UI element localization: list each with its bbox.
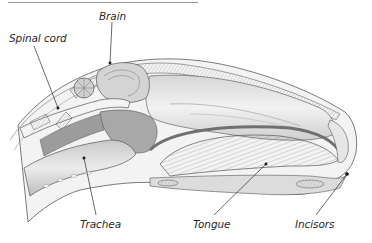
anatomy-diagram: Brain Spinal cord Trachea Tongue Incisor… — [0, 0, 372, 243]
label-incisors: Incisors — [295, 218, 334, 230]
label-brain: Brain — [99, 10, 126, 22]
label-spinal-cord: Spinal cord — [9, 32, 67, 44]
brain-region — [96, 63, 149, 103]
label-trachea: Trachea — [80, 218, 121, 230]
label-tongue: Tongue — [193, 218, 230, 230]
